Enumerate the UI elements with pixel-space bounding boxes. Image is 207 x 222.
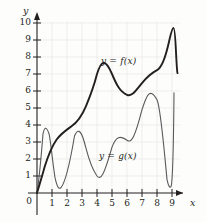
y-tick-label-2: 2 xyxy=(12,154,31,163)
graph-figure: 10 9 8 7 6 5 4 3 2 1 0 1 2 3 4 5 6 7 8 9… xyxy=(0,0,207,222)
y-tick-label-5: 5 xyxy=(12,103,31,112)
y-tick-label-6: 6 xyxy=(12,86,31,95)
x-tick-label-2: 2 xyxy=(60,199,74,208)
y-tick-label-4: 4 xyxy=(12,120,31,129)
y-axis-name: y xyxy=(23,6,28,16)
plot-canvas xyxy=(0,0,207,222)
y-tick-label-10: 10 xyxy=(12,18,31,27)
x-tick-label-1: 1 xyxy=(45,199,59,208)
x-axis xyxy=(28,189,183,197)
origin-label: 0 xyxy=(22,197,36,206)
y-tick-label-9: 9 xyxy=(12,35,31,44)
curve-f xyxy=(37,28,178,193)
x-tick-label-4: 4 xyxy=(90,199,104,208)
y-tick-label-3: 3 xyxy=(12,137,31,146)
x-tick-label-6: 6 xyxy=(120,199,134,208)
y-tick-label-7: 7 xyxy=(12,69,31,78)
y-tick-label-8: 8 xyxy=(12,52,31,61)
x-tick-label-9: 9 xyxy=(165,199,179,208)
x-tick-label-5: 5 xyxy=(105,199,119,208)
curve-label-f: y = f(x) xyxy=(101,57,136,66)
x-tick-label-8: 8 xyxy=(150,199,164,208)
curve-label-g: y = g(x) xyxy=(99,152,137,161)
x-axis-name: x xyxy=(190,198,195,208)
x-tick-label-7: 7 xyxy=(135,199,149,208)
x-tick-label-3: 3 xyxy=(75,199,89,208)
y-tick-label-1: 1 xyxy=(12,171,31,180)
